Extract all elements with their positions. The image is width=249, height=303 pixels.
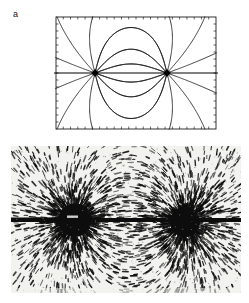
panel-label: a xyxy=(13,9,18,19)
figure-root: a xyxy=(0,0,249,303)
magnetic-field-line-diagram xyxy=(54,15,218,131)
bar-magnet xyxy=(11,218,241,221)
iron-filings-photograph xyxy=(11,146,241,293)
filings-svg xyxy=(11,146,241,293)
field-line-svg xyxy=(54,15,218,131)
